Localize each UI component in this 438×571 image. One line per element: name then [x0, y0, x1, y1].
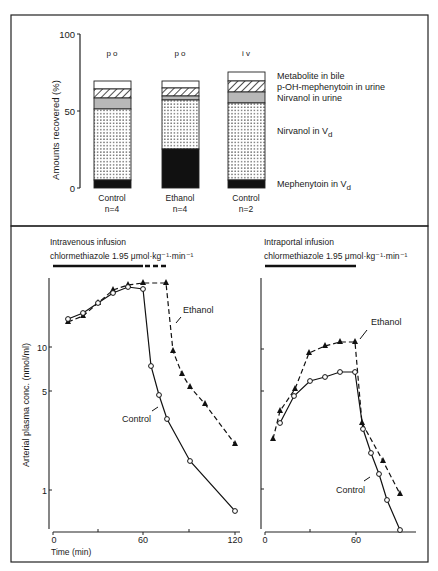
intraportal-infusion-chart: Intraportal infusion chlormethiazole 1.9… — [261, 237, 416, 545]
ip-title-line2: chlormethiazole 1.95 μmol·kg⁻¹·min⁻¹ — [264, 251, 408, 261]
legend-poh-urine: p-OH-mephenytoin in urine — [277, 82, 385, 92]
bar-control-po — [94, 81, 131, 188]
ip-ethanol-line — [273, 342, 400, 494]
ip-label-ethanol: Ethanol — [371, 317, 402, 327]
x-axis-label: Time (min) — [51, 547, 91, 557]
iv-control-markers — [66, 285, 238, 514]
iv-title-line2: chlormethiazole 1.95 μmol·kg⁻¹·min⁻¹ — [50, 251, 194, 261]
bar-label-2-n: n=4 — [173, 204, 188, 214]
iv-xtick-0: 0 — [51, 535, 56, 545]
legend-nirvanol-urine: Nirvanol in urine — [277, 93, 342, 103]
ip-xtick-60: 60 — [351, 535, 361, 545]
figure: 100 50 0 Amounts recovered (%) p o p o i… — [0, 0, 438, 571]
route-label-3: i v — [242, 49, 250, 58]
top-ytick-0: 0 — [70, 183, 75, 194]
iv-y-axis-label: Arterial plasma conc. (nmol/ml) — [21, 343, 31, 467]
iv-label-control: Control — [122, 414, 151, 424]
bar-control-iv — [228, 72, 265, 188]
iv-ytick-1: 1 — [42, 486, 47, 496]
iv-control-line — [68, 287, 235, 511]
iv-ytick-5: 5 — [42, 387, 47, 397]
bar-label-3-n: n=2 — [239, 204, 254, 214]
bar-label-2-group: Ethanol — [166, 193, 195, 203]
top-ytick-100: 100 — [59, 29, 75, 40]
ip-label-control: Control — [336, 485, 365, 495]
ip-control-line — [280, 372, 400, 530]
bar-ethanol-po — [162, 81, 199, 188]
iv-ytick-10: 10 — [37, 343, 47, 353]
ip-title-line1: Intraportal infusion — [264, 237, 334, 247]
route-label-2: p o — [174, 49, 186, 58]
route-label-1: p o — [106, 49, 118, 58]
top-bar-chart: 100 50 0 Amounts recovered (%) p o p o i… — [50, 29, 385, 214]
iv-label-ethanol: Ethanol — [183, 305, 214, 315]
bar-label-3-group: Control — [232, 193, 260, 203]
iv-infusion-chart: Intravenous infusion chlormethiazole 1.9… — [21, 237, 243, 557]
ip-xtick-0: 0 — [262, 535, 267, 545]
iv-xtick-120: 120 — [227, 535, 242, 545]
bottom-panel-frame — [11, 226, 428, 562]
iv-xtick-60: 60 — [138, 535, 148, 545]
ip-ethanol-markers — [270, 338, 403, 496]
bar-label-1-n: n=4 — [105, 204, 120, 214]
legend-metabolite-bile: Metabolite in bile — [277, 71, 345, 81]
top-ytick-50: 50 — [64, 106, 75, 117]
top-y-axis-label: Amounts recovered (%) — [50, 80, 61, 180]
top-panel-frame — [11, 15, 428, 226]
legend-mephenytoin-vd: Mephenytoin in Vd — [277, 179, 351, 192]
iv-title-line1: Intravenous infusion — [50, 237, 126, 247]
bar-label-1-group: Control — [98, 193, 126, 203]
bar-legend: Metabolite in bile p-OH-mephenytoin in u… — [277, 71, 385, 192]
legend-nirvanol-vd: Nirvanol in Vd — [277, 126, 332, 139]
